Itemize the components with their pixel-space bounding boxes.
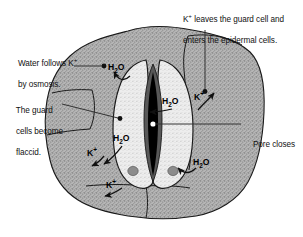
annotation-guard-flaccid-line2: cells become xyxy=(16,127,63,136)
chem-label-h2o-bottom-right: H2O xyxy=(193,157,209,167)
nucleus-left xyxy=(128,166,138,175)
annotation-potassium-leaves-line1: K+ leaves the guard cell and xyxy=(183,15,284,24)
callout-dot-guard-flaccid xyxy=(118,116,123,121)
annotation-potassium-leaves: K+ leaves the guard cell and enters the … xyxy=(174,4,284,57)
annotation-pore-closes: Pore closes xyxy=(244,129,295,161)
annotation-guard-flaccid-line3: flaccid. xyxy=(16,148,41,157)
stoma-diagram-figure: K+ leaves the guard cell and enters the … xyxy=(0,0,303,237)
annotation-water-osmosis-line1: Water follows K+ xyxy=(18,59,77,68)
pore-center-dot xyxy=(150,121,155,126)
nucleus-right xyxy=(168,166,178,175)
chem-label-potassium-right: K+ xyxy=(194,92,204,102)
callout-dot-water-osmosis xyxy=(102,64,107,69)
chem-label-potassium-left-upper: K+ xyxy=(87,148,97,158)
annotation-potassium-leaves-line2: enters the epidermal cells. xyxy=(183,36,277,45)
annotation-guard-cells-flaccid: The guard cells become flaccid. xyxy=(7,95,63,169)
chem-label-h2o-middle: H2O xyxy=(162,96,178,106)
chem-label-potassium-left-lower: K+ xyxy=(106,180,116,190)
annotation-guard-flaccid-line1: The guard xyxy=(16,106,53,115)
chem-label-h2o-lower-left: H2O xyxy=(113,133,129,143)
annotation-water-osmosis: Water follows K+ by osmosis. xyxy=(9,48,77,101)
chem-label-h2o-top-left: H2O xyxy=(108,62,124,72)
annotation-water-osmosis-line2: by osmosis. xyxy=(18,80,61,89)
annotation-pore-closes-line1: Pore closes xyxy=(253,140,295,149)
